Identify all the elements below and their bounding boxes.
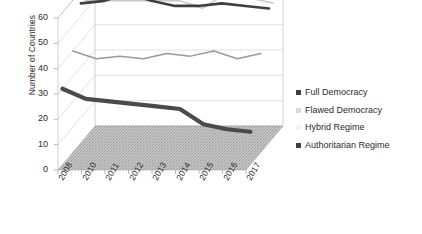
x-tick-label: 2012 — [127, 160, 145, 182]
x-tick-label: 2008 — [56, 160, 74, 182]
x-tick-label: 2011 — [103, 161, 121, 182]
x-tick-label: 2010 — [80, 160, 98, 182]
legend-item[interactable]: Flawed Democracy — [296, 102, 422, 120]
legend-swatch-icon — [296, 108, 301, 113]
x-tick-label: 2013 — [150, 160, 168, 182]
legend-label: Hybrid Regime — [305, 123, 365, 132]
chart-legend: Full DemocracyFlawed DemocracyHybrid Reg… — [296, 84, 422, 154]
chart-3d-line: Number of Countries 0102030405060 200820… — [0, 0, 422, 234]
legend-swatch-icon — [296, 143, 301, 148]
x-tick-label: 2015 — [197, 160, 215, 182]
legend-item[interactable]: Authoritarian Regime — [296, 137, 422, 155]
x-tick-label: 2014 — [174, 160, 192, 182]
legend-item[interactable]: Hybrid Regime — [296, 119, 422, 137]
legend-swatch-icon — [296, 90, 301, 95]
legend-swatch-icon — [296, 125, 301, 130]
legend-label: Full Democracy — [305, 88, 368, 97]
x-tick-label: 2017 — [244, 160, 262, 182]
legend-item[interactable]: Full Democracy — [296, 84, 422, 102]
legend-label: Flawed Democracy — [305, 106, 382, 115]
legend-label: Authoritarian Regime — [305, 141, 390, 150]
x-tick-label: 2016 — [221, 160, 239, 182]
